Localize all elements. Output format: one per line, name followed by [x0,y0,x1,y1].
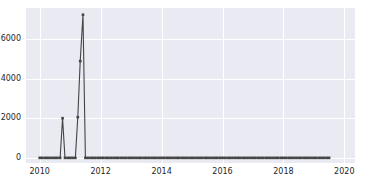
data-point-marker [259,157,262,160]
data-point-marker [130,157,133,160]
data-point-marker [211,157,214,160]
data-point-marker [76,116,79,119]
data-point-marker [175,157,178,160]
data-point-marker [127,157,130,160]
data-point-marker [178,157,181,160]
data-point-marker [307,157,310,160]
data-point-marker [264,157,267,160]
data-point-marker [38,157,41,160]
data-point-marker [305,157,308,160]
plot-area [26,8,355,163]
data-point-marker [234,157,237,160]
data-point-marker [137,157,140,160]
data-point-marker [310,157,313,160]
data-point-marker [249,157,252,160]
data-point-marker [226,157,229,160]
data-point-marker [208,157,211,160]
data-point-marker [183,157,186,160]
series-line [40,15,329,158]
data-point-marker [257,157,260,160]
data-point-marker [262,157,265,160]
data-point-marker [145,157,148,160]
data-point-marker [54,157,57,160]
data-point-marker [56,157,59,160]
data-point-marker [303,157,306,160]
data-point-marker [246,157,249,160]
data-point-marker [44,157,47,160]
data-point-marker [71,157,74,160]
data-point-marker [272,157,275,160]
x-tick-label: 2014 [142,167,182,176]
data-point-marker [216,157,219,160]
data-point-marker [82,13,85,16]
y-tick-label: 4000 [0,75,21,83]
data-point-marker [48,157,51,160]
data-point-marker [320,157,323,160]
data-point-marker [61,117,64,120]
data-point-marker [221,157,224,160]
data-point-marker [280,157,283,160]
y-tick-label: 0 [0,154,21,162]
data-point-marker [69,157,72,160]
data-point-marker [107,157,110,160]
data-point-marker [109,157,112,160]
x-tick-label: 2020 [324,167,364,176]
x-tick-label: 2012 [81,167,121,176]
data-point-marker [181,157,184,160]
data-point-marker [147,157,150,160]
data-point-marker [282,157,285,160]
data-point-marker [318,157,321,160]
data-point-marker [105,157,108,160]
data-point-marker [135,157,138,160]
data-point-marker [155,157,158,160]
data-point-marker [150,157,153,160]
series-plot [26,8,355,163]
data-point-marker [269,157,272,160]
chart-figure: 0200040006000 201020122014201620182020 [0,0,366,194]
data-point-marker [290,157,293,160]
data-point-marker [191,157,194,160]
data-point-marker [214,157,217,160]
data-point-marker [313,157,316,160]
data-point-marker [165,157,168,160]
data-point-marker [328,157,331,160]
data-point-marker [132,157,135,160]
data-point-marker [66,157,69,160]
data-point-marker [315,157,318,160]
data-point-marker [188,157,191,160]
data-point-marker [325,157,328,160]
data-point-marker [196,157,199,160]
data-point-marker [122,157,125,160]
data-point-marker [231,157,234,160]
data-point-marker [244,157,247,160]
data-point-marker [94,157,97,160]
data-point-marker [84,157,87,160]
data-point-marker [277,157,280,160]
data-point-marker [74,157,77,160]
data-point-marker [198,157,201,160]
data-point-marker [193,157,196,160]
x-tick-label: 2018 [263,167,303,176]
data-point-marker [300,157,303,160]
data-point-marker [87,157,90,160]
data-point-marker [102,157,105,160]
y-tick-label: 2000 [0,114,21,122]
data-point-marker [160,157,163,160]
data-point-marker [229,157,232,160]
data-point-marker [323,157,326,160]
data-point-marker [242,157,245,160]
data-point-marker [239,157,242,160]
y-tick-label: 6000 [0,35,21,43]
data-point-marker [79,60,82,63]
data-point-marker [125,157,128,160]
data-point-marker [170,157,173,160]
data-point-marker [168,157,171,160]
data-point-marker [59,157,62,160]
data-point-marker [163,157,166,160]
data-point-marker [292,157,295,160]
data-point-marker [236,157,239,160]
data-point-marker [153,157,156,160]
data-point-marker [140,157,143,160]
data-point-marker [204,157,207,160]
data-point-marker [64,157,67,160]
